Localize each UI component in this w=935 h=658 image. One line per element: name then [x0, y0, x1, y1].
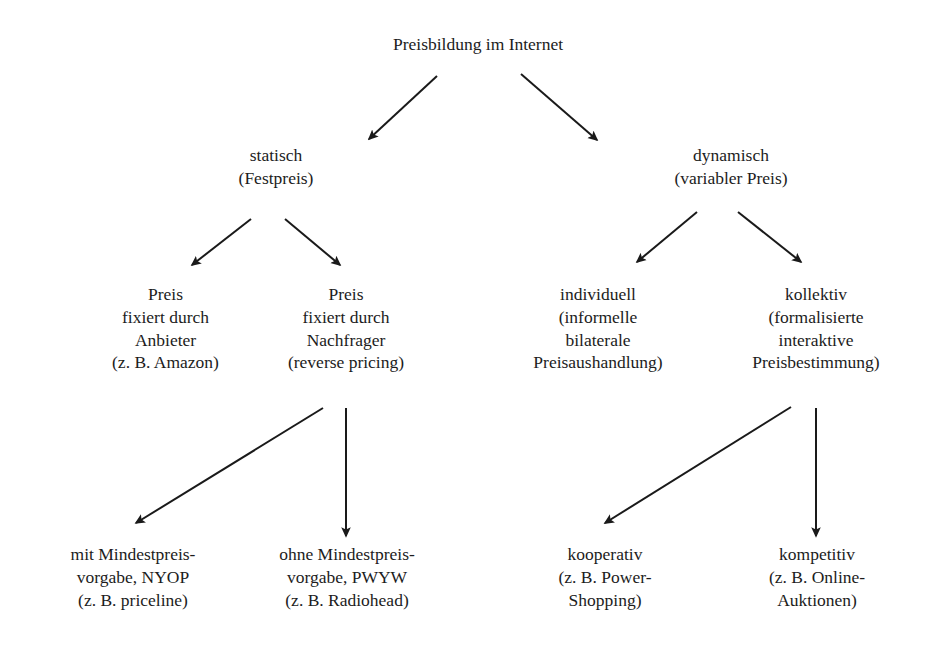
- node-line: Preisaushandlung): [498, 351, 698, 374]
- node-line: ohne Mindestpreis-: [238, 543, 456, 566]
- node-kompetitiv: kompetitiv (z. B. Online- Auktionen): [717, 543, 917, 611]
- node-line: Preisbestimmung): [716, 351, 916, 374]
- node-preisbildung-im-internet: Preisbildung im Internet: [288, 33, 668, 56]
- node-dynamisch: dynamisch (variabler Preis): [617, 144, 845, 190]
- node-preis-fixiert-durch-anbieter: Preis fixiert durch Anbieter (z. B. Amaz…: [63, 283, 268, 374]
- node-kollektiv: kollektiv (formalisierte interaktive Pre…: [716, 283, 916, 374]
- node-line: (z. B. Online-: [717, 566, 917, 589]
- node-line: Preisbildung im Internet: [288, 33, 668, 56]
- node-line: kollektiv: [716, 283, 916, 306]
- node-line: dynamisch: [617, 144, 845, 167]
- node-line: (z. B. Amazon): [63, 351, 268, 374]
- diagram-canvas: Preisbildung im Internet statisch (Festp…: [0, 0, 935, 658]
- node-line: (z. B. priceline): [22, 589, 244, 612]
- node-line: (z. B. Power-: [505, 566, 705, 589]
- node-line: (reverse pricing): [246, 351, 446, 374]
- node-line: (variabler Preis): [617, 167, 845, 190]
- node-line: Auktionen): [717, 589, 917, 612]
- node-line: Preis: [63, 283, 268, 306]
- node-line: individuell: [498, 283, 698, 306]
- node-line: (Festpreis): [176, 167, 376, 190]
- arrow-kollektiv-to-kooperativ: [605, 407, 791, 523]
- node-mit-mindestpreisvorgabe-nyop: mit Mindestpreis- vorgabe, NYOP (z. B. p…: [22, 543, 244, 611]
- arrow-statisch-to-nachfrager: [285, 219, 340, 265]
- node-individuell: individuell (informelle bilaterale Preis…: [498, 283, 698, 374]
- node-line: Anbieter: [63, 329, 268, 352]
- node-line: Nachfrager: [246, 329, 446, 352]
- node-line: bilaterale: [498, 329, 698, 352]
- arrow-dynamisch-to-kollektiv: [738, 212, 801, 262]
- node-statisch: statisch (Festpreis): [176, 144, 376, 190]
- arrow-statisch-to-anbieter: [192, 219, 251, 265]
- node-line: (informelle: [498, 306, 698, 329]
- node-line: Preis: [246, 283, 446, 306]
- node-line: fixiert durch: [63, 306, 268, 329]
- node-line: interaktive: [716, 329, 916, 352]
- node-kooperativ: kooperativ (z. B. Power- Shopping): [505, 543, 705, 611]
- node-line: fixiert durch: [246, 306, 446, 329]
- node-ohne-mindestpreisvorgabe-pwyw: ohne Mindestpreis- vorgabe, PWYW (z. B. …: [238, 543, 456, 611]
- node-line: (z. B. Radiohead): [238, 589, 456, 612]
- node-preis-fixiert-durch-nachfrager: Preis fixiert durch Nachfrager (reverse …: [246, 283, 446, 374]
- node-line: vorgabe, PWYW: [238, 566, 456, 589]
- arrow-root-to-dynamisch: [521, 74, 597, 140]
- node-line: mit Mindestpreis-: [22, 543, 244, 566]
- arrow-root-to-statisch: [369, 76, 437, 139]
- node-line: kooperativ: [505, 543, 705, 566]
- node-line: vorgabe, NYOP: [22, 566, 244, 589]
- arrow-dynamisch-to-individuell: [637, 212, 697, 262]
- node-line: statisch: [176, 144, 376, 167]
- node-line: kompetitiv: [717, 543, 917, 566]
- node-line: (formalisierte: [716, 306, 916, 329]
- node-line: Shopping): [505, 589, 705, 612]
- arrow-nachfrager-to-nyop: [136, 408, 323, 523]
